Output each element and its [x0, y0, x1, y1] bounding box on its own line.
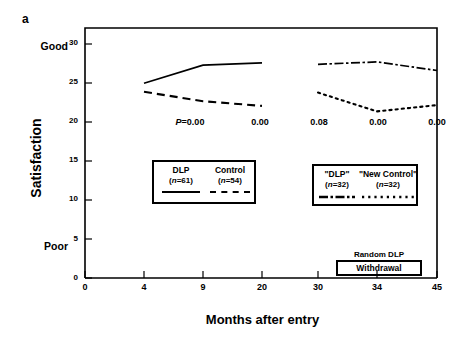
series-line-dlp-quoted — [318, 62, 437, 71]
x-tick-marks — [85, 271, 437, 278]
series-line-control — [144, 92, 262, 106]
y-tick-marks — [85, 44, 92, 278]
chart-canvas — [0, 0, 449, 342]
series-line-dlp — [144, 63, 262, 83]
series-line-new-control — [318, 93, 437, 112]
plot-frame — [85, 28, 437, 278]
